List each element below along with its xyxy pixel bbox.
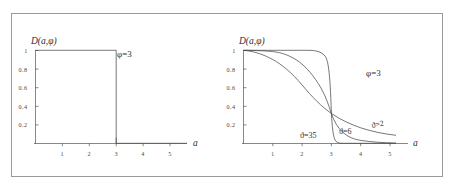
right-x-axis-label: a <box>413 138 418 148</box>
left-xtick-5: 5 <box>168 150 172 157</box>
figure-frame: D(a,φ) 1 0.8 0.6 0.4 0.2 <box>11 13 443 177</box>
left-xtick-4: 4 <box>141 150 145 157</box>
left-ytick-02: 0.2 <box>18 121 27 128</box>
left-step-curve <box>36 50 188 143</box>
plot-panel-right: D(a,φ) 1 0.8 0.6 0.4 0.2 <box>220 14 436 176</box>
right-xtick-5: 5 <box>388 150 392 157</box>
left-y-ticks <box>36 51 39 125</box>
left-ytick-08: 0.8 <box>18 66 27 73</box>
right-ytick-08: 0.8 <box>226 66 235 73</box>
right-ytick-06: 0.6 <box>226 84 235 91</box>
right-xtick-2: 2 <box>300 150 304 157</box>
left-phi-annotation: φ=3 <box>117 49 132 59</box>
left-x-axis-label: a <box>193 138 198 148</box>
left-y-axis-label: D(a,φ) <box>30 36 57 47</box>
left-plot-svg: D(a,φ) 1 0.8 0.6 0.4 0.2 <box>12 14 228 176</box>
plot-panel-left: D(a,φ) 1 0.8 0.6 0.4 0.2 <box>12 14 228 176</box>
label-theta-35: ϑ=35 <box>300 131 316 140</box>
left-ytick-04: 0.4 <box>18 103 27 110</box>
right-y-axis-label: D(a,φ) <box>238 36 265 47</box>
label-theta-2: ϑ=2 <box>371 119 385 130</box>
left-xtick-3: 3 <box>114 150 118 157</box>
right-xtick-1: 1 <box>271 150 275 157</box>
label-theta-6: ϑ=6 <box>339 127 351 136</box>
right-xtick-4: 4 <box>359 150 363 157</box>
left-xtick-2: 2 <box>88 150 92 157</box>
left-xtick-1: 1 <box>61 150 65 157</box>
right-ytick-02: 0.2 <box>226 121 235 128</box>
right-xtick-3: 3 <box>330 150 334 157</box>
right-ytick-1: 1 <box>232 47 236 54</box>
right-phi-annotation: φ=3 <box>366 68 381 78</box>
right-plot-svg: D(a,φ) 1 0.8 0.6 0.4 0.2 <box>220 14 436 176</box>
right-y-ticks <box>244 51 247 125</box>
right-ytick-04: 0.4 <box>226 103 235 110</box>
right-x-ticks <box>273 144 390 147</box>
left-ytick-06: 0.6 <box>18 84 27 91</box>
left-ytick-1: 1 <box>24 47 28 54</box>
